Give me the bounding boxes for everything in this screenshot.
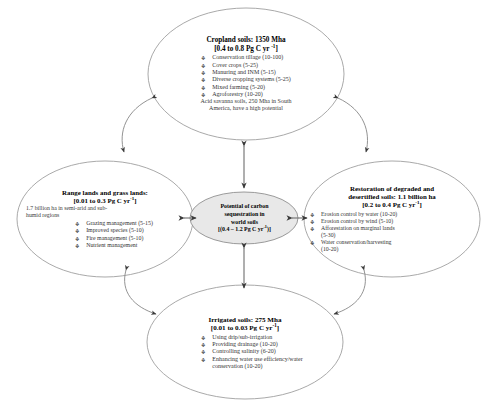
list-item: Fire management (5-10) [75,235,153,242]
list-item: Grazing management (5-15) [75,220,153,227]
range-rate: [0.01 to 0.3 Pg C yr-1] [74,197,137,205]
list-item: Water conservation/harvesting [310,239,482,246]
list-item: Diverse cropping systems (5-25) [201,76,290,83]
list-item: Cover crops (5-25) [201,62,290,69]
connector-cropland-range [122,98,152,152]
list-item: Afforestation on marginal lands [310,225,482,232]
list-item: Agroforestry (10-20) [201,91,290,98]
cropland-practice-list: Conservation tillage (10-100) Cover crop… [201,54,290,98]
list-item-continuation: (5-30) [310,232,482,239]
connector-cropland-restoration [338,98,368,152]
center-line-1: Potential of carbon [220,203,268,211]
node-range-grass-lands[interactable]: Range lands and grass lands: [0.01 to 0.… [20,163,190,275]
list-item: Providing drainage (10-20) [201,341,302,348]
cropland-rate: [0.4 to 0.8 Pg C yr -1] [214,45,278,53]
restoration-practice-list: Erosion control by water (10-20) Erosion… [302,211,482,253]
node-restoration-degraded-soils[interactable]: Restoration of degraded and desertified … [306,163,478,275]
range-practice-list: Grazing management (5-15) Improved speci… [57,220,153,249]
cropland-note-line-1: Acid savanna soils, 250 Mha in South [200,98,291,105]
irrigated-practice-list: Using drip/sub-irrigation Providing drai… [187,334,302,371]
range-note-line-1: 1.7 billion ha in semi-arid and sub- [20,205,107,212]
center-line-4: [(0.4 – 1.2 Pg C yr-1)] [218,226,271,234]
node-center-potential[interactable]: Potential of carbon sequestration in wor… [196,196,293,241]
list-item: Controlling salinity (6-20) [201,348,302,355]
list-item: Erosion control by wind (5-10) [310,218,482,225]
irrigated-title: Irrigated soils: 275 Mha [208,316,281,324]
list-item: Erosion control by water (10-20) [310,211,482,218]
list-item: Manuring and INM (5-15) [201,69,290,76]
connector-restoration-irrigated [334,270,365,314]
center-line-3: world soils [231,219,258,227]
range-title: Range lands and grass lands: [62,189,148,197]
list-item: Mixed farming (5-20) [201,84,290,91]
list-item: Nutrient management [75,242,153,249]
center-line-2: sequestration in [224,211,264,219]
restoration-rate: [0.2 to 0.4 Pg C yr-1] [362,201,421,209]
node-irrigated-soils[interactable]: Irrigated soils: 275 Mha [0.01 to 0.03 P… [152,293,338,393]
node-cropland-soils[interactable]: Cropland soils: 1350 Mha [0.4 to 0.8 Pg … [151,12,341,137]
list-item: Enhancing water use efficiency/water [201,356,302,363]
list-item-continuation: (10-20) [310,246,482,253]
list-item: Improved species (5-10) [75,227,153,234]
range-note-line-2: humid regions [20,212,59,219]
list-item: Using drip/sub-irrigation [201,334,302,341]
list-item: Conservation tillage (10-100) [201,54,290,61]
restoration-title-line-1: Restoration of degraded and [350,185,434,193]
irrigated-rate: [0.01 to 0.03 Pg C yr-1] [211,324,279,332]
list-item-continuation: conservation (10-20) [201,363,302,370]
cropland-note-line-2: America, have a high potential [209,105,283,112]
